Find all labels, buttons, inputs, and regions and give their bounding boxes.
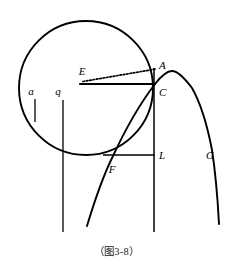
figure-caption: （图3-8） — [0, 243, 233, 258]
label-a-point: A — [158, 59, 166, 71]
label-l: L — [158, 149, 165, 161]
label-e: E — [78, 65, 86, 77]
label-q: q — [55, 85, 61, 97]
circle-shape — [19, 21, 153, 155]
label-c: C — [159, 86, 167, 98]
label-a: a — [28, 85, 34, 97]
dotted-line-ea — [83, 69, 156, 82]
figure-container: a q E A C F L G （图3-8） — [0, 0, 233, 272]
label-f: F — [108, 163, 116, 175]
label-g: G — [206, 149, 214, 161]
geometry-diagram: a q E A C F L G — [0, 0, 233, 272]
